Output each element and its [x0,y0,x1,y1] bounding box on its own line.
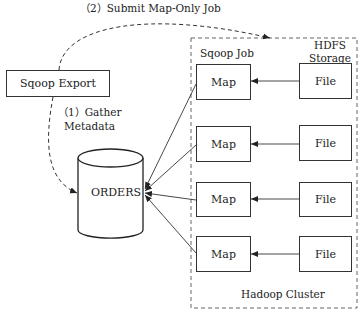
step1-label-line1: （1）Gather [58,106,122,119]
file-box-3: File [299,182,352,217]
sqoop-export-box: Sqoop Export [6,70,110,97]
file-label: File [315,193,336,206]
file-label: File [315,137,336,150]
sqoop-job-label: Sqoop Job [200,47,254,60]
map-box-2: Map [196,126,251,162]
file-label: File [315,75,336,88]
map-label: Map [211,248,236,261]
file-box-2: File [299,125,352,161]
map4-to-orders-arrow [145,195,196,253]
file-label: File [315,248,336,261]
step2-label: （2）Submit Map-Only Job [80,2,221,15]
file-box-1: File [299,63,352,99]
step1-label-line2: Metadata [64,120,115,133]
map-label: Map [211,193,236,206]
map2-to-orders-arrow [145,145,196,191]
orders-label: ORDERS [91,186,141,200]
map-label: Map [211,76,236,89]
map3-to-orders-arrow [145,193,196,200]
hadoop-cluster-label: Hadoop Cluster [241,288,325,301]
map-box-4: Map [196,236,251,272]
map-label: Map [211,138,236,151]
map-box-3: Map [196,182,251,217]
map1-to-orders-arrow [145,84,196,189]
sqoop-export-label: Sqoop Export [20,77,96,90]
file-box-4: File [299,236,352,272]
map-box-1: Map [196,64,251,100]
hdfs-label-line1: HDFS [310,39,350,52]
